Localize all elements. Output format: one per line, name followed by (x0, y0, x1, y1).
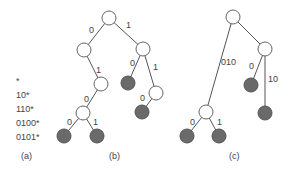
node-b-01 (94, 77, 108, 91)
tree-c-edges (187, 17, 265, 136)
leaf-c-0100 (180, 129, 194, 143)
svg-text:1: 1 (153, 62, 158, 72)
svg-text:0: 0 (84, 94, 89, 104)
svg-text:1: 1 (126, 20, 131, 30)
node-b-root (102, 11, 116, 25)
leaf-b-110 (135, 105, 149, 119)
svg-text:1: 1 (93, 117, 98, 127)
leaf-c-10 (244, 78, 258, 92)
svg-text:1: 1 (217, 117, 222, 127)
svg-text:0: 0 (249, 61, 254, 71)
node-c-010 (199, 105, 213, 119)
node-b-11 (149, 86, 163, 100)
tree-b-nodes (57, 11, 163, 143)
node-b-010 (76, 106, 90, 120)
node-b-0 (77, 43, 91, 57)
svg-text:0: 0 (130, 58, 135, 68)
svg-text:0: 0 (190, 117, 195, 127)
svg-text:10: 10 (268, 74, 278, 84)
node-b-1 (136, 42, 150, 56)
svg-text:010: 010 (221, 57, 236, 67)
leaf-c-110 (258, 106, 272, 120)
svg-text:0: 0 (89, 25, 94, 35)
node-c-root (226, 10, 240, 24)
svg-text:0: 0 (67, 117, 72, 127)
svg-text:0: 0 (140, 93, 145, 103)
leaf-b-0101 (90, 129, 104, 143)
leaf-b-10 (121, 76, 135, 90)
node-c-1 (258, 42, 272, 56)
leaf-b-0100 (57, 129, 71, 143)
svg-text:1: 1 (96, 65, 101, 75)
leaf-c-0101 (212, 129, 226, 143)
trie-diagrams: 0 1 1 0 0 1 0 1 0 010 0 10 0 1 (0, 0, 293, 173)
